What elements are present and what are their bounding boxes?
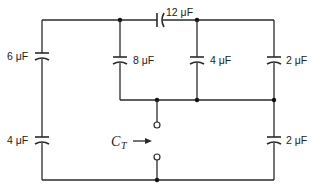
- capacitor-4uf-left: [35, 137, 49, 144]
- lower-terminal: [154, 154, 160, 160]
- capacitor-2uf-top: [267, 57, 281, 64]
- label-8uf: 8 μF: [133, 54, 154, 66]
- junction-dot: [155, 178, 159, 182]
- label-4uf-left: 4 μF: [7, 134, 28, 146]
- branch-8uf: [113, 20, 127, 100]
- circuit-diagram: 6 μF 4 μF 12 μF 8 μF 4 μF: [0, 0, 318, 191]
- junction-dot: [272, 98, 276, 102]
- upper-terminal: [154, 122, 160, 128]
- arrow-right-icon: [133, 138, 152, 144]
- branch-4uf: [190, 20, 204, 100]
- label-2uf-bottom: 2 μF: [286, 134, 307, 146]
- label-4uf-branch: 4 μF: [210, 54, 231, 66]
- label-2uf-top: 2 μF: [286, 54, 307, 66]
- junction-dot: [195, 98, 199, 102]
- capacitor-12uf: [157, 13, 164, 27]
- ct-sub: T: [121, 140, 128, 151]
- label-6uf: 6 μF: [7, 50, 28, 62]
- capacitor-6uf: [35, 53, 49, 60]
- capacitor-2uf-bottom: [267, 137, 281, 144]
- ct-label: C T: [111, 134, 128, 151]
- label-12uf: 12 μF: [166, 6, 193, 18]
- ct-main: C: [111, 134, 121, 149]
